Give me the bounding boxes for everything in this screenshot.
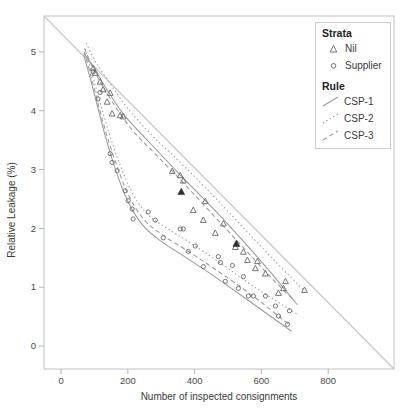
legend-item-nil: Nil xyxy=(320,40,386,57)
svg-text:0: 0 xyxy=(31,340,36,351)
legend-item-label: CSP-3 xyxy=(344,130,373,141)
y-axis-ticks: 012345 xyxy=(31,46,44,351)
legend-item-supplier: Supplier xyxy=(320,57,386,74)
series-line-nil-csp-2 xyxy=(86,43,305,291)
svg-text:800: 800 xyxy=(320,375,336,386)
dashed-line-sample-icon xyxy=(321,129,340,142)
y-axis-label: Relative Leakage (%) xyxy=(6,162,17,258)
legend-item-label: CSP-1 xyxy=(344,96,373,107)
svg-text:200: 200 xyxy=(120,375,136,386)
svg-text:2: 2 xyxy=(31,223,36,234)
svg-text:4: 4 xyxy=(31,105,36,116)
series-line-supplier-csp-3 xyxy=(84,52,288,324)
svg-text:3: 3 xyxy=(31,164,36,175)
x-axis-ticks: 0200400600800 xyxy=(58,369,336,386)
legend-item-label: Supplier xyxy=(345,60,382,71)
legend-item-csp2: CSP-2 xyxy=(320,110,386,127)
svg-text:0: 0 xyxy=(58,375,63,386)
series-points-supplier-csp-3 xyxy=(96,97,281,318)
svg-text:600: 600 xyxy=(253,375,269,386)
legend-box: Strata Nil Supplier Rule CSP-1 CSP-2 xyxy=(315,22,391,149)
triangle-marker-icon xyxy=(326,43,341,54)
legend-rule-title: Rule xyxy=(320,79,386,93)
leakage-chart-figure: 0200400600800012345 Number of inspected … xyxy=(0,0,406,416)
legend-item-label: Nil xyxy=(345,43,357,54)
legend-item-csp1: CSP-1 xyxy=(320,93,386,110)
series-line-supplier-csp-1 xyxy=(84,55,292,332)
svg-text:1: 1 xyxy=(31,281,36,292)
legend-item-label: CSP-2 xyxy=(344,113,373,124)
circle-marker-icon xyxy=(326,60,341,71)
highlight-filled-triangles xyxy=(178,188,240,246)
solid-line-sample-icon xyxy=(321,95,340,108)
svg-text:5: 5 xyxy=(31,46,36,57)
dotted-line-sample-icon xyxy=(321,112,340,125)
svg-text:400: 400 xyxy=(187,375,203,386)
legend-strata-title: Strata xyxy=(320,26,386,40)
legend-item-csp3: CSP-3 xyxy=(320,127,386,144)
x-axis-label: Number of inspected consignments xyxy=(44,391,394,402)
